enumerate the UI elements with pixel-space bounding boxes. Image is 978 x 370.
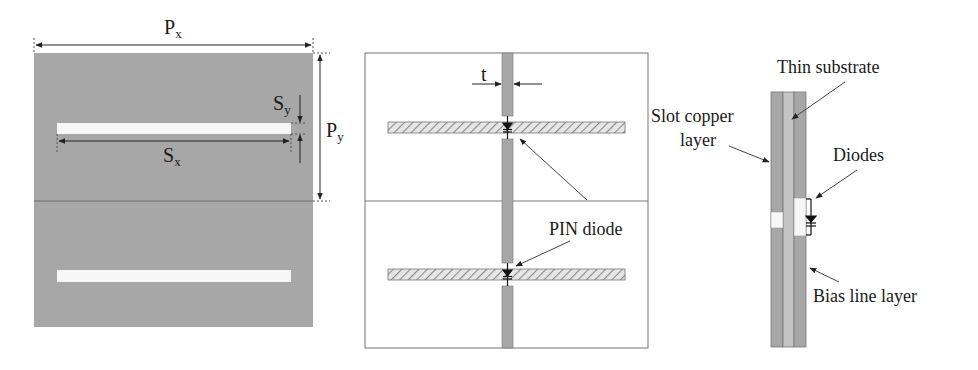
copper-plane-bottom-cell <box>34 201 313 327</box>
sy-label: Sy <box>273 93 291 116</box>
px-label: Px <box>164 17 182 40</box>
slot-bottom <box>57 270 291 282</box>
slot-copper-leader <box>729 146 769 162</box>
diodes-label: Diodes <box>833 146 884 164</box>
thin-substrate-column <box>783 92 794 347</box>
bias-gap <box>794 198 806 236</box>
cross-section-panel <box>729 82 857 347</box>
slot-copper-label-line1: Slot copper <box>651 107 734 125</box>
slot-top <box>57 123 291 134</box>
py-label: Py <box>326 120 344 143</box>
diodes-icon <box>806 199 816 235</box>
bias-layer-panel <box>365 53 648 348</box>
diodes-leader <box>816 170 857 198</box>
t-label: t <box>481 64 487 84</box>
pin-diode-label: PIN diode <box>549 220 623 238</box>
thin-substrate-label: Thin substrate <box>777 58 879 76</box>
unit-cell-panel <box>34 38 330 327</box>
figure-canvas <box>0 0 978 370</box>
bias-strip-1 <box>502 53 513 116</box>
slot-gap <box>771 212 783 228</box>
bias-line-leader <box>810 268 839 282</box>
slot-copper-label-line2: layer <box>680 131 716 149</box>
bias-line-layer-label: Bias line layer <box>813 287 917 305</box>
sx-label: Sx <box>163 145 181 168</box>
bias-strip-2 <box>502 139 513 263</box>
bias-strip-3 <box>502 286 513 348</box>
